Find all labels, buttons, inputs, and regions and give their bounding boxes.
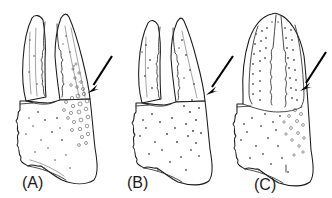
panel-label-c: (C) — [254, 176, 276, 193]
figure-illustration: (A) (B) (C) — [0, 0, 332, 198]
figure-container: (A) (B) (C) — [0, 0, 332, 198]
panel-label-a: (A) — [22, 174, 43, 191]
panel-label-b: (B) — [127, 174, 148, 191]
